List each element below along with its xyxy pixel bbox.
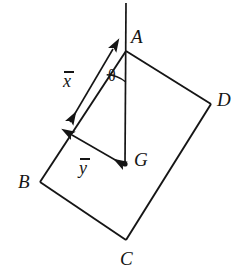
figure-root: A B C D G θ x y bbox=[0, 0, 238, 276]
x-bar-overbar bbox=[64, 71, 74, 73]
x-bar-dimension-arrow bbox=[70, 49, 113, 122]
vertex-label-d: D bbox=[217, 90, 231, 109]
centroid-dot-g bbox=[122, 161, 127, 166]
vertex-label-a: A bbox=[131, 27, 143, 46]
edge-c-d bbox=[126, 104, 211, 240]
x-bar-letter: x bbox=[63, 71, 71, 91]
x-bar-label: x bbox=[63, 72, 71, 90]
edge-d-a bbox=[126, 51, 211, 104]
vertex-label-c: C bbox=[120, 249, 133, 268]
vertex-label-b: B bbox=[18, 172, 30, 191]
edge-b-c bbox=[40, 182, 126, 240]
plate-diagram-svg bbox=[0, 0, 238, 276]
y-bar-overbar bbox=[80, 158, 90, 160]
centroid-label-g: G bbox=[134, 150, 148, 169]
plumb-line bbox=[125, 3, 126, 164]
angle-label-theta: θ bbox=[108, 68, 116, 84]
y-bar-letter: y bbox=[79, 158, 87, 178]
y-bar-label: y bbox=[79, 159, 87, 177]
